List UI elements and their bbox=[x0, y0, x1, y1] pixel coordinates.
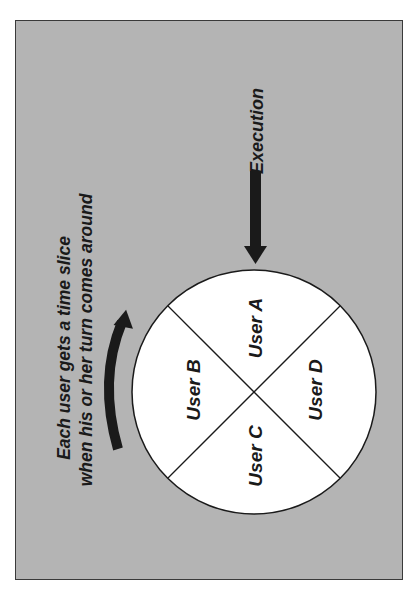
caption-line-2: when his or her turn comes around bbox=[76, 193, 96, 486]
caption-line-1: Each user gets a time slice bbox=[54, 236, 74, 460]
execution-arrow-shaft bbox=[250, 171, 261, 247]
execution-arrow-down-icon bbox=[244, 246, 267, 264]
rotation-arrow-group bbox=[109, 310, 133, 449]
slice-label-user-b: User B bbox=[183, 359, 204, 421]
slice-label-user-a: User A bbox=[245, 298, 266, 359]
caption: Each user gets a time slice when his or … bbox=[54, 193, 96, 486]
slice-label-user-c: User C bbox=[245, 425, 266, 487]
slice-label-user-d: User D bbox=[305, 359, 326, 421]
rotation-arrow-arc bbox=[109, 322, 122, 449]
execution-label: Execution bbox=[247, 88, 267, 174]
user-wheel: User A User B User C User D bbox=[132, 270, 376, 514]
execution-arrow-group: Execution bbox=[244, 88, 267, 264]
time-slice-diagram: User A User B User C User D Execution Ea… bbox=[0, 0, 419, 591]
